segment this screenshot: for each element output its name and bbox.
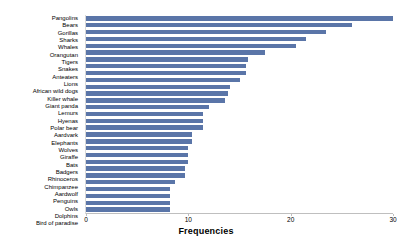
- bar-row: [86, 63, 393, 70]
- category-label: Dolphins: [0, 213, 82, 220]
- bar: [86, 91, 228, 95]
- bar-row: [86, 35, 393, 42]
- bar-row: [86, 117, 393, 124]
- category-label: Hyenas: [0, 118, 82, 125]
- category-label: African wild dogs: [0, 88, 82, 95]
- category-label: Orangutan: [0, 52, 82, 59]
- bar: [86, 16, 393, 20]
- y-axis-category-labels: PangolinsBearsGorillasSharksWhalesOrangu…: [0, 15, 82, 213]
- bar-row: [86, 206, 393, 213]
- category-label: Badgers: [0, 169, 82, 176]
- bar: [86, 139, 192, 143]
- bar: [86, 194, 170, 198]
- bar-row: [86, 145, 393, 152]
- bar-row: [86, 22, 393, 29]
- bar-row: [86, 193, 393, 200]
- bar-row: [86, 56, 393, 63]
- bar-row: [86, 199, 393, 206]
- bar-row: [86, 83, 393, 90]
- bar: [86, 112, 203, 116]
- category-label: Penguins: [0, 198, 82, 205]
- category-label: Bats: [0, 162, 82, 169]
- plot-area: [86, 15, 393, 213]
- bar: [86, 119, 203, 123]
- x-axis-ticks: 0102030: [86, 214, 393, 226]
- bar: [86, 85, 230, 89]
- bar: [86, 187, 170, 191]
- bar: [86, 78, 240, 82]
- bar-row: [86, 97, 393, 104]
- category-label: Giant panda: [0, 103, 82, 110]
- category-label: Wolves: [0, 147, 82, 154]
- category-label: Elephants: [0, 140, 82, 147]
- bar: [86, 30, 326, 34]
- bar-chart: PangolinsBearsGorillasSharksWhalesOrangu…: [0, 0, 412, 246]
- bar-row: [86, 70, 393, 77]
- bar: [86, 50, 265, 54]
- category-label: Bears: [0, 22, 82, 29]
- bar: [86, 44, 296, 48]
- category-label: Lemurs: [0, 110, 82, 117]
- category-label: Polar bear: [0, 125, 82, 132]
- bar: [86, 153, 188, 157]
- bar: [86, 37, 306, 41]
- category-label: Pangolins: [0, 15, 82, 22]
- bar-row: [86, 90, 393, 97]
- category-label: Rhinoceros: [0, 176, 82, 183]
- bar-row: [86, 49, 393, 56]
- bar-row: [86, 124, 393, 131]
- x-tick-label: 0: [84, 216, 88, 223]
- category-label: Snakes: [0, 66, 82, 73]
- bar: [86, 23, 352, 27]
- category-label: Tigers: [0, 59, 82, 66]
- category-label: Killer whale: [0, 96, 82, 103]
- bar: [86, 180, 175, 184]
- bar-rows: [86, 15, 393, 213]
- x-axis-title: Frequencies: [0, 226, 412, 236]
- bar: [86, 125, 203, 129]
- bar-row: [86, 111, 393, 118]
- bar-row: [86, 29, 393, 36]
- category-label: Lions: [0, 81, 82, 88]
- category-label: Aardvark: [0, 132, 82, 139]
- category-label: Sharks: [0, 37, 82, 44]
- x-tick-label: 30: [389, 216, 396, 223]
- category-label: Chimpanzee: [0, 184, 82, 191]
- bar-row: [86, 152, 393, 159]
- category-label: Gorillas: [0, 30, 82, 37]
- bar-row: [86, 76, 393, 83]
- bar-row: [86, 172, 393, 179]
- category-label: Owls: [0, 206, 82, 213]
- bar-row: [86, 158, 393, 165]
- bar-row: [86, 15, 393, 22]
- bar: [86, 166, 185, 170]
- category-label: Giraffe: [0, 154, 82, 161]
- bar: [86, 105, 209, 109]
- x-tick-label: 10: [185, 216, 192, 223]
- bar: [86, 173, 185, 177]
- bar-row: [86, 42, 393, 49]
- bar: [86, 201, 170, 205]
- bar-row: [86, 186, 393, 193]
- bar: [86, 207, 170, 211]
- category-label: Whales: [0, 44, 82, 51]
- bar: [86, 64, 246, 68]
- bar: [86, 57, 248, 61]
- bar: [86, 160, 188, 164]
- x-tick-label: 20: [287, 216, 294, 223]
- bar-row: [86, 165, 393, 172]
- bar: [86, 71, 246, 75]
- bar-row: [86, 179, 393, 186]
- bar: [86, 146, 188, 150]
- bar-row: [86, 104, 393, 111]
- category-label: Aardwolf: [0, 191, 82, 198]
- category-label: Anteaters: [0, 74, 82, 81]
- bar-row: [86, 131, 393, 138]
- bar: [86, 132, 192, 136]
- bar-row: [86, 138, 393, 145]
- bar: [86, 98, 225, 102]
